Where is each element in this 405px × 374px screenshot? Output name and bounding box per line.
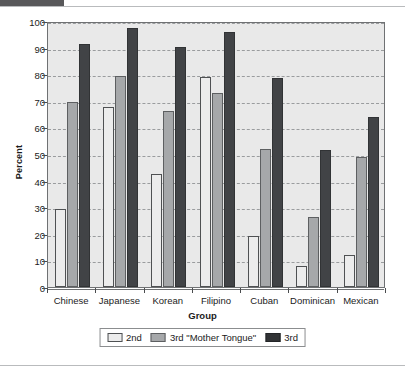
x-tick-mark-5 (288, 288, 289, 293)
x-tick-mark-4 (240, 288, 241, 293)
x-tick-label-japanese: Japanese (99, 295, 140, 306)
y-tick-label-60: 60 (5, 123, 45, 134)
x-tick-label-filipino: Filipino (201, 295, 231, 306)
gridline-90 (48, 50, 384, 51)
legend-label-2: 3rd "Mother Tongue" (170, 332, 256, 343)
bottom-horizontal-rule (0, 365, 405, 366)
x-axis-title: Group (0, 310, 405, 321)
x-tick-mark-end (385, 288, 386, 293)
legend-label-3: 3rd (284, 332, 298, 343)
legend-entry-1: 2nd (107, 332, 142, 343)
bar-korean-series-2 (163, 111, 174, 287)
bar-dominican-series-2 (308, 217, 319, 287)
bar-japanese-series-1 (103, 107, 114, 287)
bar-japanese-series-3 (127, 28, 138, 287)
legend-entry-2: 3rd "Mother Tongue" (151, 332, 256, 343)
bar-cuban-series-2 (260, 149, 271, 287)
x-tick-label-cuban: Cuban (250, 295, 278, 306)
y-tick-label-20: 20 (5, 229, 45, 240)
bar-korean-series-1 (151, 174, 162, 287)
legend-swatch-2 (151, 333, 166, 342)
y-tick-label-100: 100 (5, 17, 45, 28)
bar-chinese-series-2 (67, 102, 78, 287)
bar-chinese-series-1 (55, 209, 66, 287)
bar-mexican-series-1 (344, 255, 355, 287)
y-tick-label-40: 40 (5, 176, 45, 187)
x-tick-mark-1 (95, 288, 96, 293)
y-tick-label-50: 50 (5, 150, 45, 161)
bar-mexican-series-2 (356, 157, 367, 287)
bar-chinese-series-3 (79, 44, 90, 287)
bar-dominican-series-1 (296, 266, 307, 287)
bar-cuban-series-1 (248, 236, 259, 287)
bar-korean-series-3 (175, 47, 186, 287)
chart-legend: 2nd3rd "Mother Tongue"3rd (99, 328, 306, 347)
bar-cuban-series-3 (272, 78, 283, 287)
gridline-100 (48, 23, 384, 24)
bar-chart-figure: Percent 0102030405060708090100 ChineseJa… (0, 7, 405, 363)
bar-dominican-series-3 (320, 150, 331, 287)
gridline-80 (48, 76, 384, 77)
x-tick-label-mexican: Mexican (343, 295, 378, 306)
bar-filipino-series-3 (224, 32, 235, 287)
x-tick-mark-2 (144, 288, 145, 293)
x-tick-mark-6 (337, 288, 338, 293)
x-tick-mark-0 (47, 288, 48, 293)
plot-area (47, 22, 385, 288)
bar-filipino-series-2 (212, 93, 223, 287)
bar-japanese-series-2 (115, 76, 126, 287)
legend-swatch-3 (265, 333, 280, 342)
x-tick-label-chinese: Chinese (54, 295, 89, 306)
y-tick-label-10: 10 (5, 256, 45, 267)
x-tick-mark-3 (192, 288, 193, 293)
legend-label-1: 2nd (126, 332, 142, 343)
bar-filipino-series-1 (200, 77, 211, 287)
y-tick-label-90: 90 (5, 43, 45, 54)
gridline-0 (48, 289, 384, 290)
bar-mexican-series-3 (368, 117, 379, 287)
y-tick-label-80: 80 (5, 70, 45, 81)
legend-entry-3: 3rd (265, 332, 298, 343)
x-tick-label-dominican: Dominican (290, 295, 335, 306)
y-tick-label-70: 70 (5, 96, 45, 107)
plot-inner (48, 23, 384, 287)
y-tick-label-0: 0 (5, 283, 45, 294)
y-tick-label-30: 30 (5, 203, 45, 214)
x-tick-label-korean: Korean (152, 295, 183, 306)
legend-swatch-1 (107, 333, 122, 342)
